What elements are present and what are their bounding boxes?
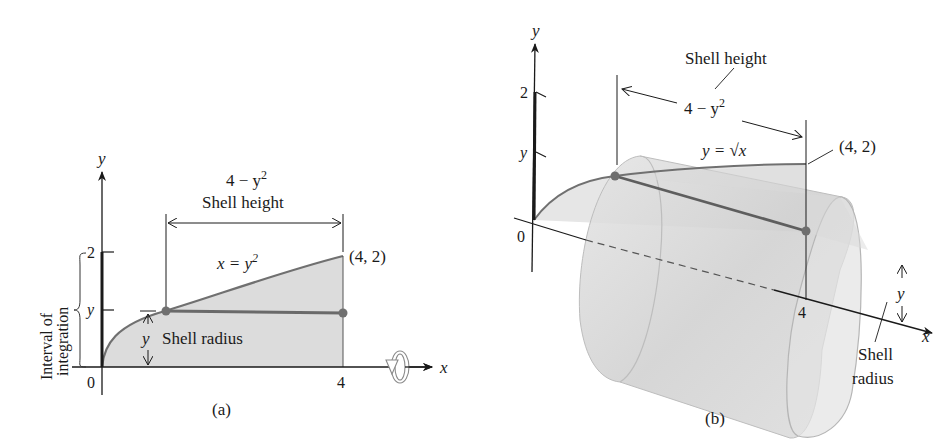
tick-y-y-b xyxy=(536,152,546,157)
shell-height-arrow-right-b xyxy=(742,121,802,137)
x-axis-label-b: x xyxy=(921,327,930,346)
interval-brace xyxy=(74,253,86,367)
point-leader-b xyxy=(808,150,833,164)
tick-label-2-b: 2 xyxy=(520,84,528,101)
shell-height-leader-b xyxy=(715,68,734,89)
interval-segment-b xyxy=(534,92,535,220)
point-label-4-2: (4, 2) xyxy=(349,247,386,266)
origin-label-b: 0 xyxy=(517,228,525,245)
point-label-4-2-b: (4, 2) xyxy=(839,137,876,156)
figure-b: x y 2 y 0 4 4 − y2 Shell height y = √x (… xyxy=(514,21,932,438)
shell-height-label: Shell height xyxy=(202,193,284,212)
radius-var-label: y xyxy=(140,329,150,348)
point-on-curve xyxy=(162,307,171,316)
point-at-x-4 xyxy=(339,309,348,318)
shell-radius-label: Shell radius xyxy=(162,329,243,348)
interval-label-line1: Interval of xyxy=(38,312,55,380)
shell-height-label-b: Shell height xyxy=(685,49,767,68)
tick-y-2-b xyxy=(536,92,546,97)
radius-var-label-b: y xyxy=(895,284,905,303)
shell-height-arrow-left-b xyxy=(622,89,677,103)
curve-label: x = y2 xyxy=(216,251,258,273)
shell-radius-line1-b: Shell xyxy=(858,345,893,364)
tick-label-2: 2 xyxy=(87,244,95,261)
x-axis-label: x xyxy=(439,358,448,377)
tick-label-y: y xyxy=(85,301,95,319)
interval-label-line2: integration xyxy=(54,307,72,376)
point-at-x-4-b xyxy=(802,227,811,236)
shell-height-expression-b: 4 − y2 xyxy=(684,96,725,118)
point-on-curve-b xyxy=(611,172,620,181)
tick-label-4-b: 4 xyxy=(798,304,806,321)
y-axis-label-b: y xyxy=(530,21,540,40)
diagram-canvas: y x 0 2 y 4 Interval of integration 4 − … xyxy=(0,0,946,448)
tick-label-y-b: y xyxy=(518,144,528,162)
shell-height-expression: 4 − y2 xyxy=(226,168,267,190)
caption-a: (a) xyxy=(212,400,231,419)
y-axis-label: y xyxy=(96,149,106,168)
caption-b: (b) xyxy=(705,409,725,428)
shell-radius-segment xyxy=(166,311,343,313)
tick-label-4: 4 xyxy=(337,374,345,391)
radius-leader-b xyxy=(875,302,887,342)
shell-radius-line2-b: radius xyxy=(852,369,894,388)
curve-label-b: y = √x xyxy=(700,141,747,160)
origin-label: 0 xyxy=(87,374,95,391)
figure-a: y x 0 2 y 4 Interval of integration 4 − … xyxy=(38,149,448,419)
